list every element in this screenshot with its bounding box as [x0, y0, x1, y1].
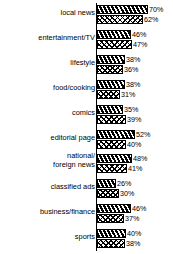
bar-group: business/finance46%37%	[0, 203, 173, 228]
bar-series-2	[97, 140, 126, 149]
bar-value-label: 40%	[126, 140, 141, 149]
bar-value-label: 70%	[148, 5, 163, 14]
category-label: local news	[1, 9, 95, 18]
bar-series-1	[97, 130, 135, 139]
bar-series-1	[97, 55, 125, 64]
bar-group: lifestyle38%36%	[0, 54, 173, 79]
bar-series-1	[97, 5, 148, 14]
horizontal-bar-chart: local news70%62%entertainment/TV46%47%li…	[0, 0, 173, 254]
bar-value-label: 52%	[135, 130, 150, 139]
bar-value-label: 39%	[126, 115, 141, 124]
bar-value-label: 30%	[119, 189, 134, 198]
bar-series-1	[97, 80, 125, 89]
bar-series-2	[97, 65, 123, 74]
bar-value-label: 37%	[124, 214, 139, 223]
bar-value-label: 41%	[127, 164, 142, 173]
bar-value-label: 46%	[131, 204, 146, 213]
bar-series-1	[97, 154, 132, 163]
category-label: food/cooking	[1, 84, 95, 93]
bar-group: classified ads26%30%	[0, 178, 173, 203]
bar-group: comics35%39%	[0, 104, 173, 129]
bar-series-2	[97, 15, 143, 24]
bar-group: editorial page52%40%	[0, 129, 173, 154]
bar-group: local news70%62%	[0, 4, 173, 29]
bar-value-label: 46%	[131, 30, 146, 39]
bar-group: food/cooking38%31%	[0, 79, 173, 104]
bar-value-label: 47%	[132, 40, 147, 49]
bar-value-label: 38%	[125, 55, 140, 64]
bar-series-2	[97, 40, 132, 49]
bar-group: sports40%38%	[0, 228, 173, 253]
bar-series-1	[97, 204, 131, 213]
category-label: entertainment/TV	[1, 34, 95, 43]
bar-value-label: 38%	[125, 239, 140, 248]
bar-value-label: 62%	[143, 15, 158, 24]
category-label: sports	[1, 233, 95, 242]
bar-series-1	[97, 105, 123, 114]
bar-series-2	[97, 239, 125, 248]
bar-value-label: 40%	[126, 229, 141, 238]
bar-series-2	[97, 164, 127, 173]
bar-group: national/ foreign news48%41%	[0, 153, 173, 178]
bar-value-label: 48%	[132, 154, 147, 163]
bar-series-2	[97, 115, 126, 124]
category-label: business/finance	[1, 208, 95, 217]
bar-series-2	[97, 189, 119, 198]
bar-series-1	[97, 229, 126, 238]
bar-series-1	[97, 30, 131, 39]
category-label: national/ foreign news	[1, 152, 95, 169]
category-label: editorial page	[1, 134, 95, 143]
bar-value-label: 26%	[116, 179, 131, 188]
bar-value-label: 36%	[123, 65, 138, 74]
bar-series-2	[97, 90, 120, 99]
bar-group: entertainment/TV46%47%	[0, 29, 173, 54]
bar-series-2	[97, 214, 124, 223]
bar-value-label: 35%	[123, 105, 138, 114]
category-label: comics	[1, 109, 95, 118]
bar-series-1	[97, 179, 116, 188]
category-label: lifestyle	[1, 59, 95, 68]
bar-value-label: 38%	[125, 80, 140, 89]
bar-value-label: 31%	[120, 90, 135, 99]
category-label: classified ads	[1, 183, 95, 192]
